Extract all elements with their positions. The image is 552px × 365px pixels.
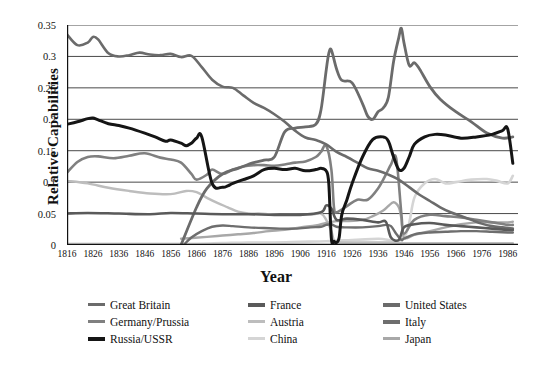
x-tick-label: 1836 <box>109 249 128 259</box>
legend-swatch-icon <box>248 320 265 323</box>
legend-label: United States <box>405 299 467 311</box>
legend-label: China <box>270 333 297 345</box>
x-tick-label: 1936 <box>369 249 388 259</box>
x-tick-label: 1816 <box>58 249 77 259</box>
legend-label: France <box>270 299 301 311</box>
relative-capabilities-chart: Relative Capabilities 00.050.10.150.20.2… <box>0 0 552 365</box>
legend-item[interactable]: Great Britain <box>88 299 248 311</box>
legend-item[interactable]: Italy <box>383 316 508 328</box>
y-tick-label: 0.05 <box>38 208 56 219</box>
plot-area <box>67 25 518 245</box>
y-tick-label: 0 <box>51 240 56 251</box>
x-tick-label: 1846 <box>135 249 154 259</box>
x-axis-tick-labels: 1816182618361846185618661876188618961906… <box>67 249 518 265</box>
x-tick-label: 1926 <box>343 249 362 259</box>
legend-swatch-icon <box>248 303 265 307</box>
legend-swatch-icon <box>88 337 105 341</box>
x-tick-label: 1826 <box>83 249 102 259</box>
x-tick-label: 1906 <box>291 249 310 259</box>
legend-item[interactable]: France <box>248 299 383 311</box>
series-line-great-britain <box>67 34 513 228</box>
y-tick-label: 0.1 <box>43 177 56 188</box>
x-tick-label: 1896 <box>265 249 284 259</box>
y-axis-tick-labels: 00.050.10.150.20.250.30.35 <box>0 25 63 245</box>
legend-swatch-icon <box>383 337 400 340</box>
legend-label: Great Britain <box>110 299 170 311</box>
legend-swatch-icon <box>383 320 400 324</box>
legend-item[interactable]: Austria <box>248 316 383 328</box>
y-tick-label: 0.2 <box>43 114 56 125</box>
x-tick-label: 1876 <box>213 249 232 259</box>
legend-swatch-icon <box>383 303 400 307</box>
chart-legend: Great BritainFranceUnited StatesGermany/… <box>88 296 508 347</box>
x-tick-label: 1866 <box>187 249 206 259</box>
x-tick-label: 1956 <box>420 249 439 259</box>
legend-item[interactable]: United States <box>383 299 508 311</box>
x-tick-label: 1916 <box>317 249 336 259</box>
legend-item[interactable]: Germany/Prussia <box>88 316 248 328</box>
legend-label: Russia/USSR <box>110 333 173 345</box>
legend-label: Japan <box>405 333 431 345</box>
y-tick-label: 0.35 <box>38 20 56 31</box>
series-line-austria <box>67 181 513 243</box>
legend-label: Germany/Prussia <box>110 316 189 328</box>
x-tick-label: 1856 <box>161 249 180 259</box>
x-tick-label: 1976 <box>472 249 491 259</box>
series-line-united-states <box>181 28 513 245</box>
legend-label: Austria <box>270 316 304 328</box>
y-tick-label: 0.15 <box>38 145 56 156</box>
y-tick-label: 0.25 <box>38 82 56 93</box>
legend-item[interactable]: Japan <box>383 333 508 345</box>
x-tick-label: 1886 <box>239 249 258 259</box>
y-tick-label: 0.3 <box>43 51 56 62</box>
legend-swatch-icon <box>248 337 265 340</box>
legend-swatch-icon <box>88 320 105 323</box>
series-line-germany-prussia <box>67 145 513 234</box>
x-axis-title: Year <box>0 268 552 286</box>
plot-svg <box>67 25 518 245</box>
legend-label: Italy <box>405 316 426 328</box>
legend-swatch-icon <box>88 303 105 306</box>
x-tick-label: 1946 <box>394 249 413 259</box>
legend-item[interactable]: Russia/USSR <box>88 333 248 345</box>
legend-item[interactable]: China <box>248 333 383 345</box>
x-tick-label: 1966 <box>446 249 465 259</box>
x-tick-label: 1986 <box>498 249 517 259</box>
